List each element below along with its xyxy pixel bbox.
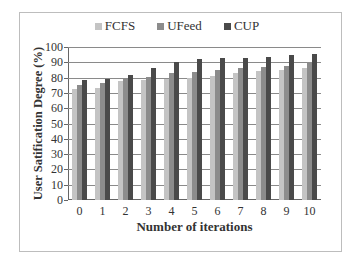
bar-group (72, 47, 87, 200)
x-tick-label: 4 (169, 204, 175, 219)
legend-label: UFeed (167, 18, 202, 34)
bar-cup (243, 58, 248, 200)
bar-group (279, 47, 294, 200)
x-axis-title: Number of iterations (68, 219, 321, 235)
y-tick (64, 185, 68, 186)
y-tick (64, 124, 68, 125)
bar-cup (128, 75, 133, 200)
y-tick-label: 30 (39, 147, 63, 162)
x-tick-label: 3 (146, 204, 152, 219)
y-tick (64, 62, 68, 63)
bar-group (233, 47, 248, 200)
y-tick-label: 80 (39, 70, 63, 85)
legend-label: CUP (234, 18, 259, 34)
legend-item-fcfs: FCFS (95, 18, 135, 34)
plot-area: 0102030405060708090100012345678910 (68, 47, 321, 200)
y-tick-label: 40 (39, 131, 63, 146)
bar-group (187, 47, 202, 200)
legend-swatch-icon (157, 23, 164, 30)
y-tick-label: 90 (39, 55, 63, 70)
bar-cup (151, 68, 156, 200)
x-tick-label: 6 (215, 204, 221, 219)
x-tick-label: 5 (192, 204, 198, 219)
bar-group (210, 47, 225, 200)
y-tick (64, 108, 68, 109)
bar-group (256, 47, 271, 200)
y-tick (64, 93, 68, 94)
legend: FCFSUFeedCUP (0, 18, 354, 34)
bar-cup (312, 54, 317, 200)
bar-cup (105, 79, 110, 200)
y-tick-label: 50 (39, 116, 63, 131)
bar-group (164, 47, 179, 200)
y-tick (64, 139, 68, 140)
y-tick-label: 0 (39, 193, 63, 208)
y-tick-label: 70 (39, 85, 63, 100)
y-tick-label: 60 (39, 101, 63, 116)
x-tick-label: 9 (284, 204, 290, 219)
bar-group (302, 47, 317, 200)
legend-item-ufeed: UFeed (157, 18, 202, 34)
y-tick-label: 20 (39, 162, 63, 177)
bar-group (95, 47, 110, 200)
y-tick (64, 78, 68, 79)
y-tick (64, 200, 68, 201)
bar-group (118, 47, 133, 200)
bar-cup (82, 80, 87, 200)
y-tick (64, 47, 68, 48)
bar-cup (220, 58, 225, 200)
bar-cup (266, 57, 271, 200)
bar-group (141, 47, 156, 200)
y-tick (64, 154, 68, 155)
x-tick-label: 7 (238, 204, 244, 219)
y-tick-label: 10 (39, 177, 63, 192)
y-tick (64, 169, 68, 170)
legend-swatch-icon (224, 23, 231, 30)
legend-label: FCFS (105, 18, 135, 34)
bar-cup (197, 59, 202, 200)
x-tick-label: 10 (304, 204, 316, 219)
bar-cup (174, 62, 179, 200)
x-tick-label: 2 (123, 204, 129, 219)
legend-item-cup: CUP (224, 18, 259, 34)
bar-cup (289, 55, 294, 200)
x-tick-label: 8 (261, 204, 267, 219)
x-tick-label: 0 (77, 204, 83, 219)
legend-swatch-icon (95, 23, 102, 30)
y-tick-label: 100 (39, 40, 63, 55)
x-tick-label: 1 (100, 204, 106, 219)
